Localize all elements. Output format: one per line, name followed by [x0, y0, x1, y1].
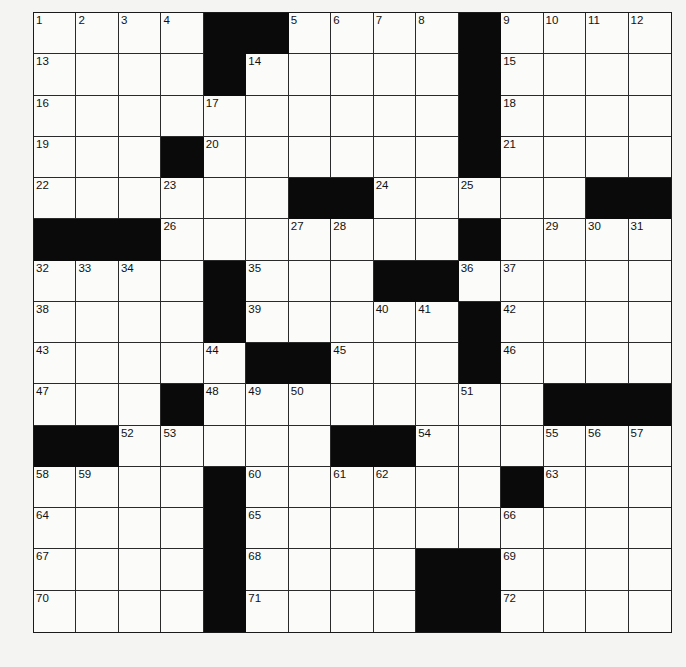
- crossword-cell[interactable]: [246, 178, 288, 219]
- crossword-cell[interactable]: [119, 591, 161, 632]
- crossword-cell[interactable]: [586, 467, 628, 508]
- crossword-cell[interactable]: [331, 508, 373, 549]
- crossword-cell[interactable]: [119, 343, 161, 384]
- crossword-cell[interactable]: [544, 508, 586, 549]
- crossword-cell[interactable]: 33: [76, 261, 118, 302]
- crossword-cell[interactable]: [289, 261, 331, 302]
- crossword-cell[interactable]: 54: [416, 426, 458, 467]
- crossword-cell[interactable]: [119, 508, 161, 549]
- crossword-cell[interactable]: 52: [119, 426, 161, 467]
- crossword-cell[interactable]: 46: [501, 343, 543, 384]
- crossword-cell[interactable]: 28: [331, 219, 373, 260]
- crossword-cell[interactable]: 63: [544, 467, 586, 508]
- crossword-cell[interactable]: [161, 508, 203, 549]
- crossword-cell[interactable]: [544, 96, 586, 137]
- crossword-cell[interactable]: 49: [246, 384, 288, 425]
- crossword-cell[interactable]: 56: [586, 426, 628, 467]
- crossword-cell[interactable]: [416, 467, 458, 508]
- crossword-cell[interactable]: 17: [204, 96, 246, 137]
- crossword-cell[interactable]: [246, 137, 288, 178]
- crossword-cell[interactable]: [161, 261, 203, 302]
- crossword-cell[interactable]: 61: [331, 467, 373, 508]
- crossword-cell[interactable]: [331, 384, 373, 425]
- crossword-cell[interactable]: [289, 96, 331, 137]
- crossword-cell[interactable]: [76, 384, 118, 425]
- crossword-cell[interactable]: [76, 178, 118, 219]
- crossword-cell[interactable]: [544, 54, 586, 95]
- crossword-cell[interactable]: 37: [501, 261, 543, 302]
- crossword-cell[interactable]: [289, 467, 331, 508]
- crossword-cell[interactable]: 40: [374, 302, 416, 343]
- crossword-cell[interactable]: [586, 261, 628, 302]
- crossword-cell[interactable]: [76, 96, 118, 137]
- crossword-cell[interactable]: [76, 302, 118, 343]
- crossword-cell[interactable]: 27: [289, 219, 331, 260]
- crossword-cell[interactable]: [416, 137, 458, 178]
- crossword-cell[interactable]: [629, 137, 671, 178]
- crossword-cell[interactable]: [586, 302, 628, 343]
- crossword-cell[interactable]: 15: [501, 54, 543, 95]
- crossword-cell[interactable]: [629, 467, 671, 508]
- crossword-cell[interactable]: [374, 219, 416, 260]
- crossword-cell[interactable]: 9: [501, 13, 543, 54]
- crossword-cell[interactable]: [119, 96, 161, 137]
- crossword-cell[interactable]: 8: [416, 13, 458, 54]
- crossword-cell[interactable]: [76, 549, 118, 590]
- crossword-cell[interactable]: [459, 508, 501, 549]
- crossword-cell[interactable]: [331, 137, 373, 178]
- crossword-cell[interactable]: 41: [416, 302, 458, 343]
- crossword-cell[interactable]: [586, 96, 628, 137]
- crossword-cell[interactable]: [374, 96, 416, 137]
- crossword-cell[interactable]: [374, 591, 416, 632]
- crossword-cell[interactable]: 2: [76, 13, 118, 54]
- crossword-cell[interactable]: 55: [544, 426, 586, 467]
- crossword-cell[interactable]: [161, 343, 203, 384]
- crossword-cell[interactable]: 21: [501, 137, 543, 178]
- crossword-cell[interactable]: [331, 96, 373, 137]
- crossword-cell[interactable]: 47: [34, 384, 76, 425]
- crossword-cell[interactable]: 1: [34, 13, 76, 54]
- crossword-cell[interactable]: [119, 54, 161, 95]
- crossword-cell[interactable]: [629, 508, 671, 549]
- crossword-cell[interactable]: [629, 54, 671, 95]
- crossword-cell[interactable]: [374, 137, 416, 178]
- crossword-cell[interactable]: [246, 96, 288, 137]
- crossword-cell[interactable]: [586, 54, 628, 95]
- crossword-cell[interactable]: [161, 54, 203, 95]
- crossword-cell[interactable]: [629, 591, 671, 632]
- crossword-cell[interactable]: 62: [374, 467, 416, 508]
- crossword-cell[interactable]: [246, 219, 288, 260]
- crossword-cell[interactable]: [416, 96, 458, 137]
- crossword-cell[interactable]: 48: [204, 384, 246, 425]
- crossword-cell[interactable]: [246, 426, 288, 467]
- crossword-cell[interactable]: [416, 54, 458, 95]
- crossword-cell[interactable]: [331, 549, 373, 590]
- crossword-cell[interactable]: 3: [119, 13, 161, 54]
- crossword-cell[interactable]: [629, 549, 671, 590]
- crossword-cell[interactable]: [76, 54, 118, 95]
- crossword-cell[interactable]: [459, 426, 501, 467]
- crossword-cell[interactable]: 10: [544, 13, 586, 54]
- crossword-cell[interactable]: [501, 426, 543, 467]
- crossword-cell[interactable]: 16: [34, 96, 76, 137]
- crossword-cell[interactable]: 69: [501, 549, 543, 590]
- crossword-cell[interactable]: 58: [34, 467, 76, 508]
- crossword-cell[interactable]: [416, 508, 458, 549]
- crossword-cell[interactable]: [119, 137, 161, 178]
- crossword-cell[interactable]: 50: [289, 384, 331, 425]
- crossword-cell[interactable]: 4: [161, 13, 203, 54]
- crossword-cell[interactable]: 26: [161, 219, 203, 260]
- crossword-cell[interactable]: 45: [331, 343, 373, 384]
- crossword-cell[interactable]: [586, 591, 628, 632]
- crossword-cell[interactable]: [161, 591, 203, 632]
- crossword-cell[interactable]: [374, 384, 416, 425]
- crossword-cell[interactable]: 68: [246, 549, 288, 590]
- crossword-cell[interactable]: 39: [246, 302, 288, 343]
- crossword-cell[interactable]: [289, 426, 331, 467]
- crossword-cell[interactable]: [204, 426, 246, 467]
- crossword-cell[interactable]: 51: [459, 384, 501, 425]
- crossword-cell[interactable]: [119, 549, 161, 590]
- crossword-cell[interactable]: 67: [34, 549, 76, 590]
- crossword-cell[interactable]: [76, 591, 118, 632]
- crossword-cell[interactable]: [331, 261, 373, 302]
